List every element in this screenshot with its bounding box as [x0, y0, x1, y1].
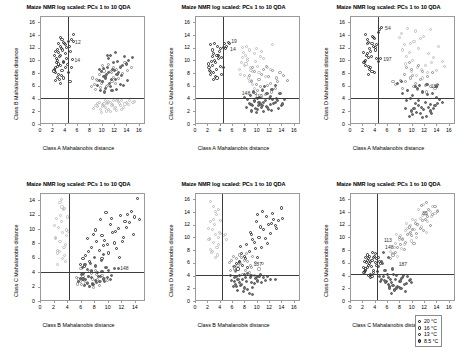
data-point	[239, 245, 242, 248]
data-point	[127, 103, 130, 106]
y-tick-mark	[193, 22, 195, 23]
x-tick-mark	[135, 301, 136, 303]
data-point	[264, 279, 267, 282]
data-point	[110, 217, 113, 220]
data-point	[109, 223, 112, 226]
legend-marker-16c	[418, 326, 421, 329]
data-point	[432, 107, 435, 110]
data-point	[217, 57, 220, 60]
x-tick-mark	[126, 124, 127, 126]
data-point	[238, 68, 241, 71]
data-point	[387, 256, 390, 259]
legend-item: 20 °C	[418, 318, 438, 325]
data-point	[399, 243, 402, 246]
legend-item: 16 °C	[418, 325, 438, 332]
y-tick-label: 2	[333, 285, 345, 291]
data-point	[363, 260, 366, 263]
x-tick-mark	[257, 124, 258, 126]
data-point	[281, 102, 284, 105]
data-point	[422, 35, 425, 38]
data-point	[270, 88, 273, 91]
x-tick-mark	[114, 124, 115, 126]
data-point	[274, 87, 277, 90]
data-point	[94, 264, 97, 267]
data-point	[255, 220, 258, 223]
data-point	[224, 233, 227, 236]
x-tick-label: 14	[430, 127, 442, 133]
point-annotation: 19	[231, 38, 237, 44]
y-tick-mark	[38, 60, 40, 61]
y-tick-mark	[193, 212, 195, 213]
x-axis-label: Class A Mahalanobis distance	[0, 145, 157, 151]
data-point	[109, 110, 112, 113]
threshold-line-vertical	[377, 194, 378, 300]
data-point	[113, 241, 116, 244]
data-point	[266, 84, 269, 87]
data-point	[112, 61, 115, 64]
data-point	[443, 65, 446, 68]
x-axis-label: Class A Mahalanobis distance	[310, 145, 467, 151]
data-point	[118, 256, 121, 259]
data-point	[269, 82, 272, 85]
x-tick-label: 8	[393, 304, 405, 310]
data-point	[248, 102, 251, 105]
data-point	[432, 56, 435, 59]
x-tick-mark	[375, 124, 376, 126]
data-point	[91, 76, 94, 79]
y-tick-mark	[38, 301, 40, 302]
data-point	[130, 66, 133, 69]
data-point	[98, 73, 101, 76]
data-point	[212, 71, 215, 74]
data-point	[127, 59, 130, 62]
data-point	[264, 75, 267, 78]
data-point	[207, 227, 210, 230]
x-tick-mark	[257, 301, 258, 303]
data-point	[216, 45, 219, 48]
data-point	[404, 290, 407, 293]
x-tick-mark	[195, 124, 196, 126]
data-point	[62, 246, 65, 249]
y-tick-label: 2	[333, 108, 345, 114]
data-point	[106, 54, 109, 57]
data-point	[239, 73, 242, 76]
x-tick-label: 12	[418, 304, 430, 310]
data-point	[403, 73, 406, 76]
legend-label-85c: 8.5 °C	[424, 338, 438, 345]
data-point	[209, 220, 212, 223]
y-tick-label: 4	[178, 272, 190, 278]
data-point	[415, 111, 418, 114]
data-point	[115, 247, 118, 250]
data-point	[130, 210, 133, 213]
point-annotation: 113	[384, 236, 392, 242]
y-tick-mark	[38, 73, 40, 74]
y-tick-mark	[193, 250, 195, 251]
data-point	[267, 75, 270, 78]
data-point	[254, 247, 257, 250]
x-tick-label: 12	[263, 127, 275, 133]
data-point	[128, 221, 131, 224]
x-tick-mark	[412, 301, 413, 303]
x-tick-mark	[424, 301, 425, 303]
x-tick-label: 0	[344, 127, 356, 133]
x-tick-mark	[52, 124, 53, 126]
data-point	[90, 85, 93, 88]
y-tick-label: 10	[333, 234, 345, 240]
data-point	[248, 48, 251, 51]
data-point	[214, 256, 217, 259]
x-tick-mark	[436, 124, 437, 126]
data-point	[126, 69, 129, 72]
y-tick-label: 16	[333, 19, 345, 25]
data-point	[414, 29, 417, 32]
data-point	[405, 66, 408, 69]
data-point	[215, 76, 218, 79]
y-tick-mark	[38, 215, 40, 216]
x-tick-mark	[139, 124, 140, 126]
data-point	[104, 211, 107, 214]
data-point	[98, 68, 101, 71]
data-point	[234, 270, 237, 273]
y-tick-label: 14	[333, 32, 345, 38]
data-point	[408, 61, 411, 64]
y-tick-mark	[348, 48, 350, 49]
data-point	[100, 259, 103, 262]
y-tick-label: 14	[23, 197, 35, 203]
